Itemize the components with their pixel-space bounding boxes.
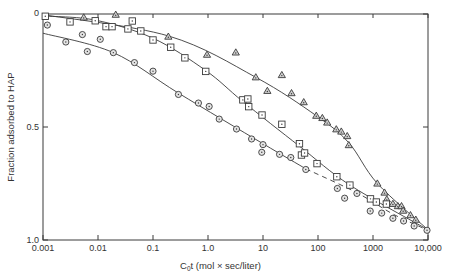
marker-dot [386,199,387,200]
marker-dot [341,131,342,132]
marker-dot [376,201,377,202]
x-tick-label: 1000 [363,243,383,253]
marker-dot [208,106,209,107]
triangle-marker [381,189,388,195]
marker-dot [87,51,88,52]
marker-dot [242,99,243,100]
marker-dot [82,34,83,35]
marker-dot [344,197,345,198]
marker-dot [65,41,66,42]
marker-dot [305,169,306,170]
marker-dot [349,184,350,185]
series-triangles [80,11,419,222]
marker-dot [348,145,349,146]
triangle-marker [232,49,239,55]
y-tick-label: 0 [34,8,39,18]
triangle-marker [165,33,172,39]
marker-dot [370,198,371,199]
marker-dot [337,188,338,189]
marker-dot [426,230,427,231]
marker-dot [219,118,220,119]
marker-dot [261,152,262,153]
marker-dot [127,28,128,29]
marker-dot [392,204,393,205]
fit-curve-circles [43,33,306,169]
triangle-marker [264,87,271,93]
marker-dot [370,210,371,211]
plot-area: 0.0010.010.11.010100100010,00000.51.0 Fr… [0,0,449,278]
marker-dot [168,37,169,38]
marker-dot [281,75,282,76]
marker-dot [327,122,328,123]
x-tick-label: 100 [310,243,325,253]
marker-dot [140,30,141,31]
y-tick-label: 0.5 [26,122,39,132]
marker-dot [322,118,323,119]
data-markers [42,11,430,233]
marker-dot [152,39,153,40]
marker-dot [111,26,112,27]
marker-dot [115,15,116,16]
marker-dot [386,203,387,204]
marker-dot [403,220,404,221]
triangle-marker [252,74,259,80]
marker-dot [100,39,101,40]
y-axis-label: Fraction adsorbed to HAP [5,72,16,181]
marker-dot [198,102,199,103]
marker-dot [384,192,385,193]
marker-dot [267,91,268,92]
marker-dot [134,62,135,63]
marker-dot [178,94,179,95]
triangle-marker [313,112,320,118]
marker-dot [251,138,252,139]
triangle-marker [300,99,307,105]
y-tick-label: 1.0 [26,235,39,245]
marker-dot [132,20,133,21]
marker-dot [279,154,280,155]
marker-dot [347,136,348,137]
x-tick-label: 0.1 [147,243,160,253]
triangle-marker [80,14,87,20]
marker-dot [281,124,282,125]
marker-dot [413,225,414,226]
marker-dot [356,193,357,194]
marker-dot [303,102,304,103]
x-tick-label: 10,000 [414,243,442,253]
triangle-marker [345,141,352,147]
marker-dot [248,106,249,107]
marker-dot [206,55,207,56]
x-axis-label: C0t (mol × sec/liter) [180,260,261,272]
marker-dot [83,17,84,18]
marker-dot [236,128,237,129]
marker-dot [377,183,378,184]
series-squares [42,13,389,207]
marker-dot [401,206,402,207]
marker-dot [45,16,46,17]
marker-dot [247,98,248,99]
marker-dot [205,71,206,72]
marker-dot [291,93,292,94]
marker-dot [410,215,411,216]
marker-dot [316,163,317,164]
marker-dot [47,24,48,25]
marker-dot [415,220,416,221]
triangle-marker [288,90,295,96]
marker-dot [105,26,106,27]
triangle-marker [278,71,285,77]
x-tick-label: 10 [258,243,268,253]
x-tick-label: 0.01 [89,243,107,253]
marker-dot [261,114,262,115]
marker-dot [290,157,291,158]
marker-dot [262,144,263,145]
marker-dot [392,218,393,219]
marker-dot [304,152,305,153]
marker-dot [184,57,185,58]
marker-dot [152,70,153,71]
marker-dot [402,211,403,212]
marker-dot [255,77,256,78]
marker-dot [299,143,300,144]
chart-figure: 0.0010.010.11.010100100010,00000.51.0 Fr… [0,0,449,278]
marker-dot [170,47,171,48]
marker-dot [381,212,382,213]
marker-dot [95,20,96,21]
